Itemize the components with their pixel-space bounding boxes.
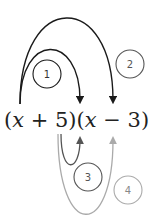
step-1-number: 1 bbox=[44, 69, 50, 80]
first-operator-and-constant: + 5)( bbox=[24, 108, 85, 132]
arrow-step-3 bbox=[61, 134, 80, 165]
step-2-number: 2 bbox=[127, 59, 133, 70]
first-x-term: x bbox=[12, 108, 24, 132]
paren-open: ( bbox=[4, 108, 12, 132]
step-4-number: 4 bbox=[125, 185, 131, 196]
arrow-step-2 bbox=[20, 18, 113, 104]
step-3-number: 3 bbox=[85, 172, 91, 183]
binomial-product-expression: (x + 5)(x − 3) bbox=[4, 108, 150, 132]
second-operator-and-constant: − 3) bbox=[97, 108, 150, 132]
second-x-term: x bbox=[85, 108, 97, 132]
